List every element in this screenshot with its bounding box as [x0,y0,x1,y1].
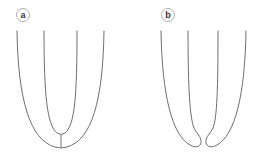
right-j-curve [206,31,246,147]
inner-u-curve [44,31,77,135]
outer-u-curve [17,31,104,148]
left-j-curve [161,31,201,147]
figure-canvas: a b [0,0,257,156]
panel-a-label-badge: a [17,9,30,22]
panel-b-label-badge: b [162,9,175,22]
panel-a: a [17,9,105,149]
panel-b: b [161,9,246,147]
panel-b-label: b [165,10,171,20]
